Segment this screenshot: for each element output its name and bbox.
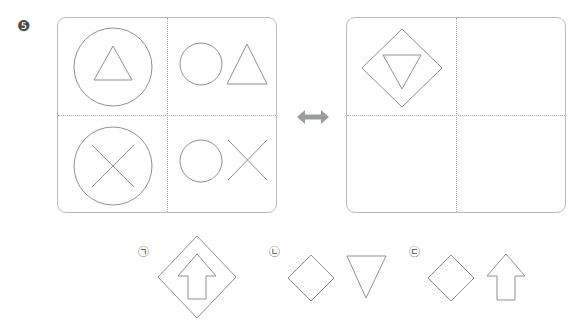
target-quadrant-top-left xyxy=(347,18,456,115)
triangle-down-icon xyxy=(383,55,421,89)
arrow-up-icon xyxy=(487,254,525,300)
source-quadrant-top-right xyxy=(167,18,276,115)
option-c[interactable]: ㉢ xyxy=(405,232,525,322)
puzzle-canvas: ❺ xyxy=(0,0,582,329)
option-a-figure xyxy=(154,232,240,322)
question-number: ❺ xyxy=(14,17,32,35)
option-a-marker: ㉠ xyxy=(138,246,149,259)
diamond-icon xyxy=(362,29,442,107)
diamond-icon xyxy=(158,236,236,318)
diamond-icon xyxy=(428,255,474,301)
source-quadrant-bottom-right xyxy=(167,115,276,212)
arrow-up-icon xyxy=(178,254,216,299)
target-quadrant-bottom-left xyxy=(347,115,456,212)
option-c-marker: ㉢ xyxy=(409,246,420,259)
answer-options: ㉠ ㉡ ㉢ xyxy=(0,232,582,329)
triangle-up-icon xyxy=(227,44,267,84)
target-panel xyxy=(346,17,566,213)
option-c-figure xyxy=(425,248,529,306)
triangle-up-icon xyxy=(94,46,132,80)
shape-group-circle-and-x xyxy=(179,135,269,187)
circle-icon xyxy=(180,140,222,182)
circle-icon xyxy=(74,28,152,106)
shape-group-circle-with-x xyxy=(66,123,160,209)
option-b-marker: ㉡ xyxy=(269,246,280,259)
source-panel xyxy=(57,17,277,213)
circle-icon xyxy=(180,43,222,85)
target-quadrant-top-right xyxy=(456,18,565,115)
source-quadrant-top-left xyxy=(58,18,167,115)
source-quadrant-bottom-left xyxy=(58,115,167,212)
diamond-icon xyxy=(288,255,334,301)
x-mark-icon xyxy=(92,145,134,187)
shape-group-circle-and-triangle xyxy=(179,38,269,90)
double-arrow-icon xyxy=(297,107,329,127)
x-mark-icon xyxy=(228,140,267,180)
shape-group-circle-with-triangle xyxy=(66,24,160,110)
option-a[interactable]: ㉠ xyxy=(130,232,250,322)
triangle-down-icon xyxy=(347,256,386,298)
option-b[interactable]: ㉡ xyxy=(265,232,385,322)
shape-group-diamond-with-triangle-down xyxy=(359,26,445,110)
target-quadrant-bottom-right xyxy=(456,115,565,212)
option-b-figure xyxy=(285,248,389,306)
